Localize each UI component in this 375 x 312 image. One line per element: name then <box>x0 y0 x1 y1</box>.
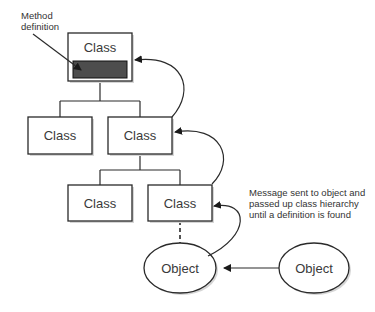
class-box-level1-left-label: Class <box>44 128 77 143</box>
note-line-3: until a definition is found <box>249 209 351 220</box>
class-box-level2-right: Class <box>148 185 214 223</box>
object-ellipse-receiver: Object <box>144 243 218 295</box>
class-box-level2-left: Class <box>68 185 134 223</box>
class-box-level1-right: Class <box>108 117 174 156</box>
class-box-root-label: Class <box>84 40 117 55</box>
lookup-arrow-level2-to-level1 <box>175 131 224 184</box>
method-definition-label: Method definition <box>21 10 59 32</box>
class-box-level2-right-label: Class <box>164 196 197 211</box>
object-ellipse-sender: Object <box>279 243 351 295</box>
class-box-level1-left: Class <box>28 117 94 156</box>
lookup-note: Message sent to object and passed up cla… <box>249 187 365 220</box>
class-hierarchy-diagram: Class Class Class Class Class Object Obj… <box>0 0 375 312</box>
class-box-root: Class <box>68 33 134 83</box>
class-box-level1-right-label: Class <box>124 128 157 143</box>
lookup-arrow-level1-to-root <box>135 59 184 117</box>
object-receiver-label: Object <box>161 261 199 276</box>
class-box-level2-left-label: Class <box>84 196 117 211</box>
note-line-1: Message sent to object and <box>249 187 365 198</box>
note-line-2: passed up class hierarchy <box>249 198 359 209</box>
method-label-line2: definition <box>21 21 59 32</box>
method-label-line1: Method <box>21 10 53 21</box>
object-sender-label: Object <box>295 261 333 276</box>
